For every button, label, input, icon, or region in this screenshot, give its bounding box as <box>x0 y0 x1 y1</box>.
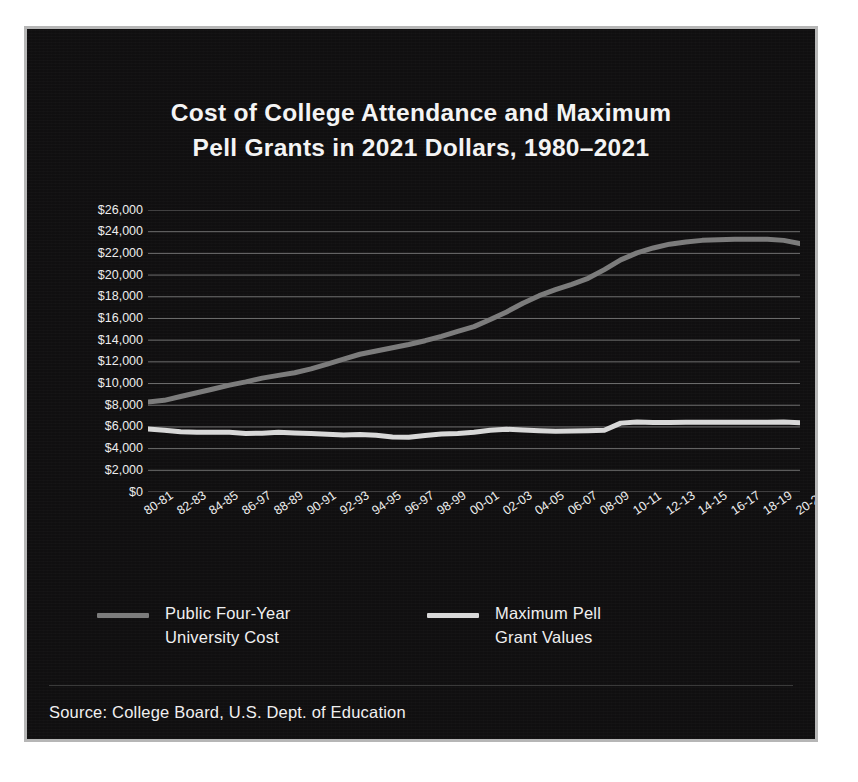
y-axis-tick-label: $24,000 <box>57 225 143 238</box>
plot-svg <box>148 210 800 492</box>
series-line-pell <box>148 422 800 437</box>
y-axis-tick-label: $14,000 <box>57 334 143 347</box>
legend-item-pell: Maximum Pell Grant Values <box>427 601 601 649</box>
y-axis-tick-label: $22,000 <box>57 247 143 260</box>
x-axis-tick-label: 86-97 <box>240 489 274 518</box>
series-lines <box>148 239 800 437</box>
x-axis-tick-label: 12-13 <box>664 489 698 518</box>
x-axis-tick-label: 06-07 <box>566 489 600 518</box>
x-axis-tick-label: 88-89 <box>272 489 306 518</box>
chart-panel: Cost of College Attendance and Maximum P… <box>27 29 815 739</box>
x-axis-labels: 80-8182-8384-8586-9788-8990-9192-9394-95… <box>148 495 808 565</box>
y-axis-tick-label: $26,000 <box>57 204 143 217</box>
poster-page: Cost of College Attendance and Maximum P… <box>0 0 858 782</box>
y-axis-tick-label: $18,000 <box>57 290 143 303</box>
x-axis-tick-label: 92-93 <box>338 489 372 518</box>
legend-color-swatch <box>427 613 479 618</box>
y-axis-tick-label: $12,000 <box>57 355 143 368</box>
x-axis-tick-label: 04-05 <box>533 489 567 518</box>
legend-color-swatch <box>97 613 149 618</box>
y-axis-tick-label: $0 <box>57 486 143 499</box>
source-divider <box>49 685 793 686</box>
x-axis-tick-label: 94-95 <box>370 489 404 518</box>
x-axis-tick-label: 00-01 <box>468 489 502 518</box>
chart-title: Cost of College Attendance and Maximum P… <box>27 95 815 165</box>
x-axis-tick-label: 16-17 <box>729 489 763 518</box>
y-axis-tick-label: $6,000 <box>57 420 143 433</box>
y-axis-tick-label: $16,000 <box>57 312 143 325</box>
x-axis-tick-label: 18-19 <box>761 489 795 518</box>
y-axis-tick-label: $4,000 <box>57 442 143 455</box>
x-axis-tick-label: 90-91 <box>305 489 339 518</box>
y-axis-tick-label: $20,000 <box>57 269 143 282</box>
x-axis-tick-label: 14-15 <box>696 489 730 518</box>
y-axis-tick-label: $2,000 <box>57 464 143 477</box>
y-axis-tick-label: $8,000 <box>57 399 143 412</box>
x-axis-tick-label: 96-97 <box>403 489 437 518</box>
x-axis-tick-label: 08-09 <box>598 489 632 518</box>
gridlines <box>148 210 800 492</box>
plot-area <box>148 210 800 492</box>
x-axis-tick-label: 20-21 <box>794 489 815 518</box>
y-axis-tick-label: $10,000 <box>57 377 143 390</box>
legend-item-cost: Public Four-Year University Cost <box>97 601 290 649</box>
series-line-cost <box>148 239 800 402</box>
x-axis-tick-label: 02-03 <box>501 489 535 518</box>
y-axis-labels: $26,000$24,000$22,000$20,000$18,000$16,0… <box>57 203 143 499</box>
legend-label: Public Four-Year University Cost <box>165 601 290 649</box>
chart-legend: Public Four-Year University CostMaximum … <box>97 601 757 663</box>
x-axis-tick-label: 98-99 <box>435 489 469 518</box>
x-axis-tick-label: 82-83 <box>175 489 209 518</box>
x-axis-tick-label: 84-85 <box>207 489 241 518</box>
chart-frame: Cost of College Attendance and Maximum P… <box>24 26 818 742</box>
source-note: Source: College Board, U.S. Dept. of Edu… <box>49 701 406 723</box>
x-axis-tick-label: 80-81 <box>142 489 176 518</box>
x-axis-tick-label: 10-11 <box>631 490 664 518</box>
legend-label: Maximum Pell Grant Values <box>495 601 601 649</box>
